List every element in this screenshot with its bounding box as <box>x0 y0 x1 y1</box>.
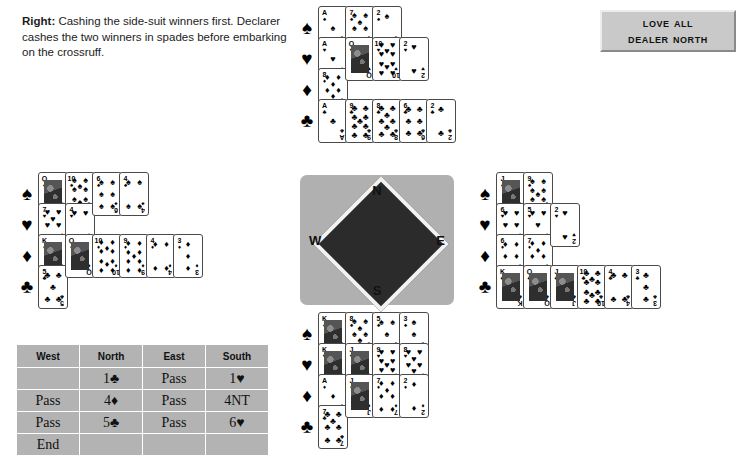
card-pip: ♣ <box>405 105 411 114</box>
card-pip: ♦ <box>110 266 115 275</box>
card-face <box>529 273 547 301</box>
card-face: ♦♦♦♦♦♦♦♦♦ <box>120 235 148 277</box>
card-pip: ♦ <box>379 379 384 388</box>
suit-symbol-spade: ♠ <box>16 178 38 208</box>
card-pip: ♣ <box>583 297 589 306</box>
card-pip: ♠ <box>83 184 88 193</box>
card-pip: ♠ <box>110 201 115 210</box>
card-pip: ♥ <box>417 361 422 370</box>
card-club-9: 9♣9♣♣♣♣♣♣♣♣♣♣ <box>345 99 375 143</box>
card-pip: ♦ <box>412 380 417 389</box>
card-pip: ♦ <box>105 260 110 269</box>
card-face <box>71 242 89 270</box>
card-pip: ♣ <box>622 294 628 303</box>
card-pip: ♦ <box>132 252 137 261</box>
card-pip: ♠ <box>358 323 363 332</box>
card-pip: ♠ <box>78 181 83 190</box>
card-pip: ♦ <box>105 243 110 252</box>
suit-symbol-diamond: ♦ <box>296 380 318 410</box>
card-pip: ♣ <box>351 131 357 140</box>
auction-row: 1♣Pass1♥ <box>17 368 269 390</box>
card-face: ♦♦♦ <box>174 235 202 277</box>
auction-bid-cell: 5♣ <box>80 412 143 434</box>
card-face: ♣♣♣♣ <box>605 266 633 308</box>
card-pip: ♦ <box>503 252 508 261</box>
card-pip: ♠ <box>72 184 77 193</box>
card-pip: ♠ <box>352 11 357 20</box>
auction-bid-cell: End <box>17 434 80 456</box>
card-pip: ♣ <box>390 129 396 138</box>
card-pip: ♥ <box>411 354 416 363</box>
card-pip: ♥ <box>406 348 411 357</box>
card-pip: ♦ <box>325 86 330 95</box>
card-pip: ♦ <box>530 239 535 248</box>
card-pip: ♦ <box>536 245 541 254</box>
card-pip: ♠ <box>99 201 104 210</box>
card-pip: ♠ <box>126 178 131 187</box>
card-pip: ♦ <box>336 73 341 82</box>
card-pip: ♦ <box>186 240 191 249</box>
card-pip: ♣ <box>336 435 342 444</box>
card-pip: ♥ <box>535 221 540 230</box>
card-pip: ♣ <box>56 271 62 280</box>
card-pip: ♠ <box>126 201 131 210</box>
card-pip: ♠ <box>137 178 142 187</box>
card-pip: ♥ <box>56 221 61 230</box>
card-pip: ♦ <box>390 379 395 388</box>
card-face: ♠♠♠♠ <box>120 173 148 215</box>
card-face: ♣♣♣♣♣♣♣♣♣ <box>346 100 374 142</box>
dealer-label: Dealer North <box>628 31 708 47</box>
card-pip: ♠ <box>110 190 115 199</box>
card-club-6: 6♣6♣♣♣♣♣♣♣ <box>399 99 429 143</box>
card-club-Q: Q♣Q♣ <box>523 265 553 309</box>
auction-header-west: West <box>17 345 80 368</box>
card-pip: ♦ <box>153 240 158 249</box>
card-face <box>351 382 369 410</box>
card-club-K: K♣K♣ <box>496 265 526 309</box>
card-pip: ♠ <box>137 201 142 210</box>
card-pip: ♦ <box>99 266 104 275</box>
card-pip: ♣ <box>417 117 423 126</box>
card-diamond-2: 2♦2♦♦♦ <box>399 374 429 418</box>
card-pip: ♠ <box>390 318 395 327</box>
card-pip: ♣ <box>643 271 649 280</box>
card-pip: ♣ <box>50 283 56 292</box>
auction-row: Pass4♦Pass4NT <box>17 390 269 412</box>
card-club-8: 8♣8♣♣♣♣♣♣♣♣♣ <box>372 99 402 143</box>
card-pip: ♣ <box>595 297 601 306</box>
card-pip: ♦ <box>541 239 546 248</box>
auction-row: Pass5♣Pass6♥ <box>17 412 269 434</box>
card-pip: ♥ <box>56 208 61 217</box>
card-face: ♥♥ <box>400 38 428 80</box>
auction-bid-cell: Pass <box>143 390 206 412</box>
suit-symbol-club: ♣ <box>474 271 496 301</box>
card-club-4: 4♣4♣♣♣♣♣ <box>604 265 634 309</box>
card-pip: ♥ <box>83 209 88 218</box>
auction-bid-cell: Pass <box>143 412 206 434</box>
auction-header-south: South <box>206 345 269 368</box>
vulnerability-label: Love All <box>643 15 693 31</box>
card-diamond-Q: Q♦Q♦ <box>65 234 95 278</box>
card-club-10: 10♣10♣♣♣♣♣♣♣♣♣♣♣ <box>577 265 607 309</box>
card-pip: ♥ <box>379 49 384 58</box>
card-pip: ♦ <box>390 404 395 413</box>
card-pip: ♥ <box>330 55 335 64</box>
card-pip: ♣ <box>417 128 423 137</box>
auction-header-north: North <box>80 345 143 368</box>
compass-east-label: E <box>436 233 445 248</box>
card-pip: ♣ <box>438 128 444 137</box>
compass-south-label: S <box>373 283 382 298</box>
card-face: ♣♣♣ <box>632 266 660 308</box>
card-pip: ♣ <box>438 105 444 114</box>
card-pip: ♦ <box>541 252 546 261</box>
card-diamond-J: J♦J♦ <box>345 374 375 418</box>
caption-text: Cashing the side-suit winners first. Dec… <box>22 15 287 58</box>
compass-west-label: W <box>309 233 321 248</box>
card-pip: ♠ <box>363 330 368 339</box>
auction-bid-cell: Pass <box>17 412 80 434</box>
auction-bid-cell <box>206 434 269 456</box>
card-pip: ♥ <box>514 209 519 218</box>
card-pip: ♦ <box>110 246 115 255</box>
card-pip: ♦ <box>164 263 169 272</box>
card-face: ♣♣ <box>427 100 455 142</box>
